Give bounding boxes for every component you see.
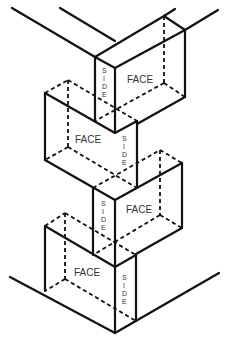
side-label-3: S I D E [101, 200, 106, 231]
svg-text:I: I [103, 75, 105, 82]
svg-text:I: I [102, 208, 104, 215]
svg-text:E: E [122, 298, 127, 305]
svg-text:S: S [102, 67, 107, 74]
side-label-1: S I D E [102, 67, 107, 98]
face-label-1: FACE [127, 74, 153, 85]
isometric-diagram: FACE S I D E FACE S I D E FACE S I D E F… [0, 0, 227, 348]
top-beam [12, 8, 218, 57]
svg-text:D: D [102, 83, 107, 90]
svg-text:D: D [122, 290, 127, 297]
svg-text:E: E [101, 224, 106, 231]
face-label-4: FACE [74, 267, 100, 278]
svg-text:S: S [122, 135, 127, 142]
side-label-4: S I D E [122, 274, 127, 305]
svg-text:D: D [101, 216, 106, 223]
svg-text:E: E [122, 159, 127, 166]
face-label-2: FACE [75, 134, 101, 145]
face-label-3: FACE [126, 204, 152, 215]
svg-text:I: I [123, 143, 125, 150]
svg-text:I: I [123, 282, 125, 289]
svg-text:S: S [122, 274, 127, 281]
side-label-2: S I D E [122, 135, 127, 166]
diagram-canvas: FACE S I D E FACE S I D E FACE S I D E F… [0, 0, 227, 348]
svg-text:E: E [102, 91, 107, 98]
svg-text:S: S [101, 200, 106, 207]
svg-text:D: D [122, 151, 127, 158]
